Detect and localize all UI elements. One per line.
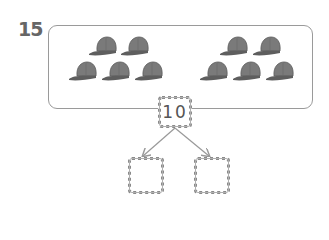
bond-part-box-left[interactable] xyxy=(128,157,164,194)
bond-total-box: 10 xyxy=(158,96,192,128)
cap-icon xyxy=(134,61,164,83)
cap-icon xyxy=(120,36,150,58)
cap-icon xyxy=(68,61,98,83)
cap-icon xyxy=(232,61,262,83)
cap-icon xyxy=(199,61,229,83)
cap-icon xyxy=(219,36,249,58)
cap-icon xyxy=(252,36,282,58)
cap-icon xyxy=(265,61,295,83)
cap-icon xyxy=(88,36,118,58)
cap-icon xyxy=(101,61,131,83)
bond-part-box-right[interactable] xyxy=(194,157,230,194)
